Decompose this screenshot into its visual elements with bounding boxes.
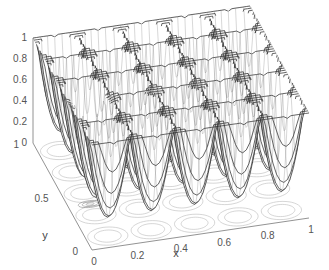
z-tick-label: 0.6: [13, 74, 27, 85]
z-tick-label: 0.8: [13, 53, 27, 64]
y-tick-label: 1: [13, 139, 19, 150]
x-tick-label: 0.2: [130, 250, 144, 261]
y-tick-label: 0.5: [35, 193, 49, 204]
x-tick-label: 1: [308, 224, 314, 235]
y-tick-label: 0: [72, 246, 78, 257]
x-axis-label: x: [173, 247, 179, 259]
x-tick-label: 0: [91, 256, 97, 267]
surface-plot: 00.20.40.60.8100.20.40.60.8100.51xy: [0, 0, 329, 270]
z-tick-label: 0: [21, 137, 27, 148]
z-tick-label: 1: [21, 32, 27, 43]
x-tick-label: 0.8: [261, 230, 275, 241]
z-tick-label: 0.4: [13, 95, 27, 106]
z-tick-label: 0.2: [13, 116, 27, 127]
y-axis-label: y: [42, 229, 48, 241]
x-tick-label: 0.6: [217, 237, 231, 248]
